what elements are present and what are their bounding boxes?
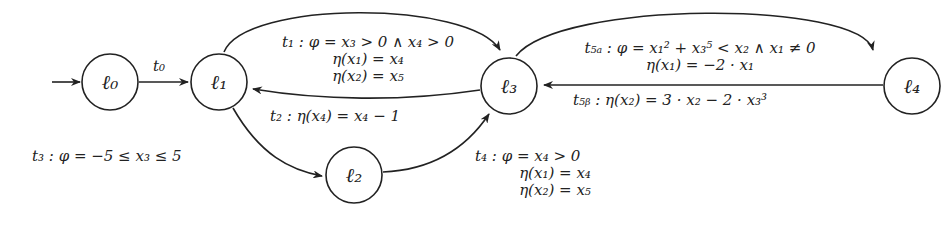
- t4-update-2: η(x₂) = x₅: [475, 182, 635, 199]
- edge-t1-label: t₁ : φ = x₃ > 0 ∧ x₄ > 0 η(x₁) = x₄ η(x₂…: [238, 34, 498, 85]
- node-l0-label: ℓ₀: [82, 72, 138, 92]
- edge-t5b-label: t₅ᵦ : η(x₂) = 3 · x₂ − 2 · x₃³: [573, 92, 767, 109]
- t1-update-1: η(x₁) = x₄: [238, 51, 498, 68]
- edge-t0-label: t₀: [153, 58, 165, 75]
- t4-update-1: η(x₁) = x₄: [475, 165, 635, 182]
- t1-guard: t₁ : φ = x₃ > 0 ∧ x₄ > 0: [238, 34, 498, 51]
- node-l2-label: ℓ₂: [326, 165, 382, 185]
- t5a-update: η(x₁) = −2 · x₁: [535, 57, 865, 74]
- node-l4-label: ℓ₄: [884, 76, 940, 96]
- t1-update-2: η(x₂) = x₅: [238, 68, 498, 85]
- edge-t2: [253, 89, 480, 98]
- edge-t2-label: t₂ : η(x₄) = x₄ − 1: [270, 108, 400, 125]
- t4-guard: t₄ : φ = x₄ > 0: [475, 148, 635, 165]
- edge-t3-label: t₃ : φ = −5 ≤ x₃ ≤ 5: [32, 148, 182, 165]
- edge-t5a-label: t₅ₐ : φ = x₁² + x₃⁵ < x₂ ∧ x₁ ≠ 0 η(x₁) …: [535, 40, 865, 74]
- edge-t4-label: t₄ : φ = x₄ > 0 η(x₁) = x₄ η(x₂) = x₅: [475, 148, 635, 199]
- t5a-guard: t₅ₐ : φ = x₁² + x₃⁵ < x₂ ∧ x₁ ≠ 0: [535, 40, 865, 57]
